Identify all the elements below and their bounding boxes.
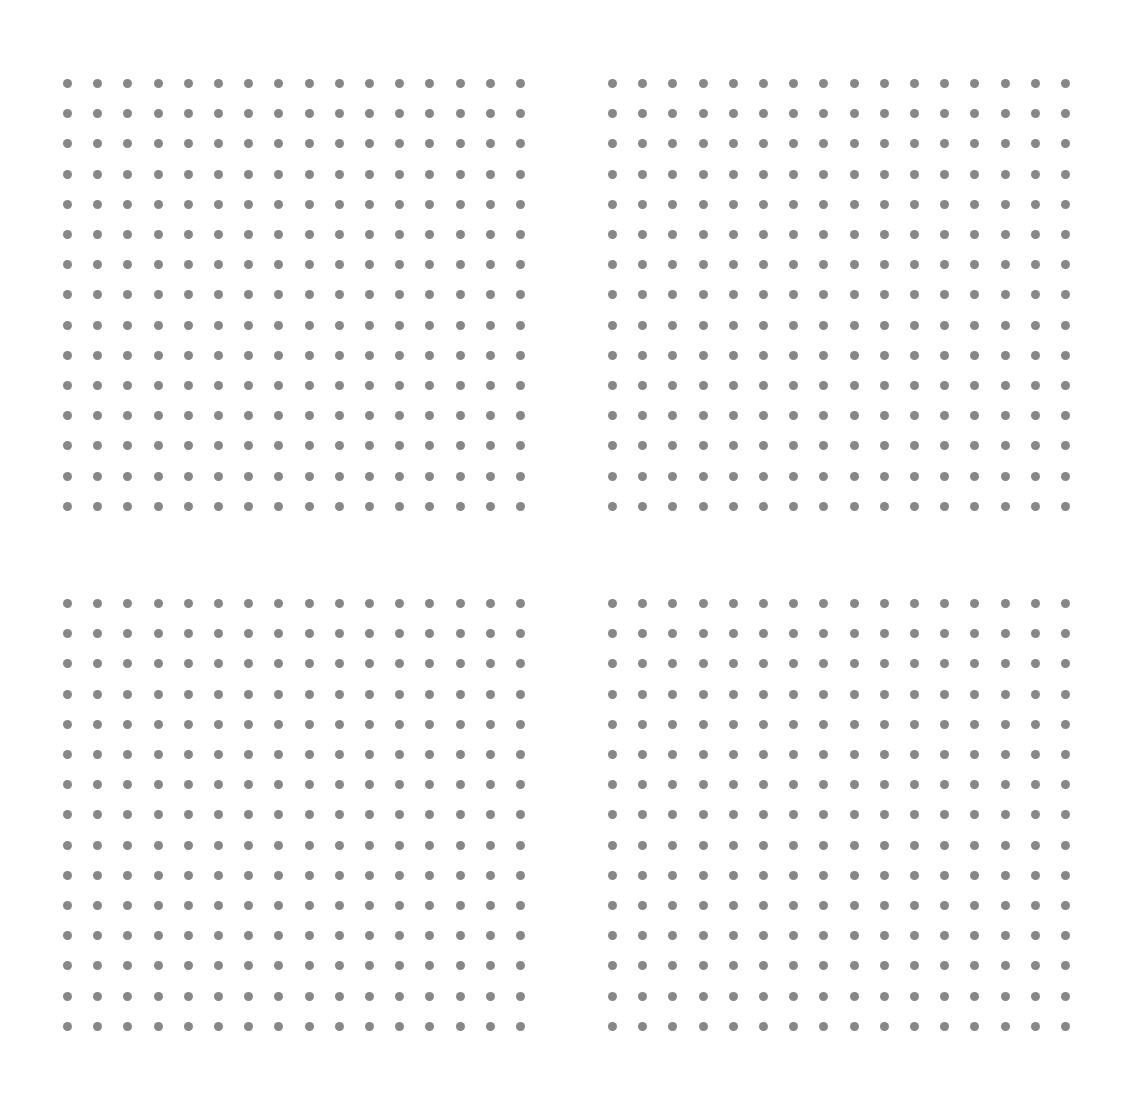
grid-dot [668,780,677,789]
grid-dot [123,961,132,970]
grid-dot [425,599,434,608]
grid-dot [93,901,102,910]
grid-dot [244,871,253,880]
grid-dot [93,411,102,420]
grid-dot [244,170,253,179]
grid-dot [63,750,72,759]
grid-dot [305,599,314,608]
grid-dot [516,871,525,880]
grid-dot [154,931,163,940]
grid-dot [850,109,859,118]
grid-dot [910,79,919,88]
grid-dot [729,810,738,819]
grid-dot [244,260,253,269]
grid-dot [184,841,193,850]
grid-dot [638,200,647,209]
grid-dot [789,170,798,179]
grid-dot [759,381,768,390]
grid-dot [486,1022,495,1031]
grid-dot [1001,690,1010,699]
grid-dot [274,351,283,360]
grid-dot [970,200,979,209]
grid-dot [638,109,647,118]
grid-dot [335,502,344,511]
grid-dot [668,1022,677,1031]
grid-dot [880,109,889,118]
grid-dot [335,351,344,360]
grid-dot [759,961,768,970]
grid-dot [335,381,344,390]
grid-dot [335,411,344,420]
grid-dot [244,992,253,1001]
grid-dot [395,690,404,699]
grid-dot [1031,901,1040,910]
grid-dot [456,1022,465,1031]
grid-dot [214,170,223,179]
grid-dot [456,230,465,239]
grid-dot [1001,200,1010,209]
grid-dot [486,502,495,511]
grid-dot [395,992,404,1001]
grid-dot [335,599,344,608]
grid-dot [395,290,404,299]
grid-dot [789,780,798,789]
grid-dot [850,502,859,511]
grid-dot [184,441,193,450]
grid-dot [154,810,163,819]
grid-dot [699,290,708,299]
grid-dot [214,599,223,608]
grid-dot [759,810,768,819]
grid-dot [335,109,344,118]
grid-dot [1031,750,1040,759]
grid-dot [668,230,677,239]
grid-dot [395,901,404,910]
grid-dot [819,502,828,511]
grid-dot [880,411,889,420]
grid-dot [516,170,525,179]
grid-dot [970,109,979,118]
grid-dot [970,841,979,850]
grid-dot [365,659,374,668]
grid-dot [516,901,525,910]
grid-dot [1031,139,1040,148]
grid-dot [395,810,404,819]
grid-dot [486,79,495,88]
grid-dot [305,200,314,209]
grid-dot [608,659,617,668]
grid-dot [335,139,344,148]
grid-dot [1061,290,1070,299]
grid-dot [305,961,314,970]
grid-dot [729,351,738,360]
grid-dot [425,260,434,269]
grid-dot [274,260,283,269]
grid-dot [668,321,677,330]
grid-dot [516,502,525,511]
grid-dot [729,931,738,940]
grid-dot [880,690,889,699]
grid-dot [1031,690,1040,699]
grid-dot [516,992,525,1001]
grid-dot [244,411,253,420]
grid-dot [274,961,283,970]
grid-dot [1031,720,1040,729]
grid-dot [819,321,828,330]
grid-dot [1001,321,1010,330]
grid-dot [305,750,314,759]
grid-dot [63,871,72,880]
grid-dot [516,441,525,450]
grid-dot [940,720,949,729]
grid-dot [789,109,798,118]
grid-dot [729,441,738,450]
grid-dot [970,659,979,668]
grid-dot [456,629,465,638]
grid-dot [638,841,647,850]
grid-dot [154,720,163,729]
grid-dot [638,411,647,420]
grid-dot [244,351,253,360]
grid-dot [699,381,708,390]
grid-dot [486,170,495,179]
grid-dot [244,502,253,511]
grid-dot [184,381,193,390]
grid-dot [154,109,163,118]
grid-dot [940,750,949,759]
